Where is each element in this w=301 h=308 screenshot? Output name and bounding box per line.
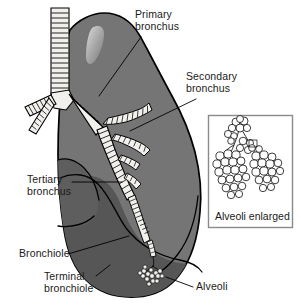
label-primary-bronchus: Primary bronchus (135, 9, 179, 32)
trachea (51, 8, 69, 96)
label-secondary-bronchus: Secondary bronchus (186, 71, 237, 94)
label-tertiary-bronchus: Tertiary bronchus (27, 174, 71, 197)
diagram-canvas (0, 0, 301, 308)
lung-anatomy-diagram: Primary bronchus Secondary bronchus Tert… (0, 0, 301, 308)
label-bronchiole: Bronchiole (19, 248, 70, 260)
label-terminal-bronchiole: Terminal bronchiole (44, 271, 94, 294)
label-alveoli: Alveoli (196, 281, 228, 293)
inset-caption-alveoli-enlarged: Alveoli enlarged (215, 210, 290, 222)
